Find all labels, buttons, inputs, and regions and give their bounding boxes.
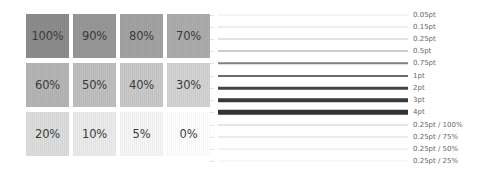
tick-mark xyxy=(210,125,214,126)
tint-swatch-50: 50% xyxy=(73,63,116,107)
line-weight-label: 0.25pt / 75% xyxy=(413,133,458,141)
line-weight-row: 1pt xyxy=(218,70,479,82)
line-weight-row: 0.75pt xyxy=(218,57,479,69)
swatch-label: 70% xyxy=(176,29,201,43)
line-stroke xyxy=(218,110,408,115)
line-weight-label: 0.5pt xyxy=(413,47,431,55)
tint-swatch-10: 10% xyxy=(73,112,116,156)
line-weight-row: 2pt xyxy=(218,82,479,94)
line-stroke xyxy=(218,62,408,64)
line-stroke xyxy=(218,125,408,126)
line-weight-label: 1pt xyxy=(413,72,425,80)
line-weight-row: 0.05pt xyxy=(218,9,479,21)
line-stroke xyxy=(218,15,408,16)
tick-mark xyxy=(210,39,214,40)
tick-mark xyxy=(210,112,214,113)
line-stroke xyxy=(218,75,408,77)
tick-mark xyxy=(210,51,214,52)
line-weight-label: 2pt xyxy=(413,84,425,92)
line-weight-label: 0.05pt xyxy=(413,11,436,19)
tint-swatch-40: 40% xyxy=(120,63,163,107)
swatch-label: 100% xyxy=(31,29,63,43)
line-weight-label: 0.15pt xyxy=(413,23,436,31)
line-weight-row: 0.25pt / 50% xyxy=(218,143,479,155)
swatch-label: 10% xyxy=(82,127,107,141)
line-stroke xyxy=(218,39,408,40)
line-weight-row: 0.25pt xyxy=(218,33,479,45)
tint-swatch-grid: 100% 90% 80% 70% 60% 50% 40% 30% 20% 10%… xyxy=(26,14,210,156)
tint-swatch-90: 90% xyxy=(73,14,116,58)
line-weight-row: 0.25pt / 25% xyxy=(218,155,479,167)
line-weight-list: 0.05pt 0.15pt 0.25pt 0.5pt 0.75pt 1pt 2p… xyxy=(218,0,479,176)
tint-swatch-0: 0% xyxy=(167,112,210,156)
tint-swatch-20: 20% xyxy=(26,112,69,156)
tint-swatch-5: 5% xyxy=(120,112,163,156)
tick-mark xyxy=(210,161,214,162)
line-weight-row: 0.15pt xyxy=(218,21,479,33)
swatch-label: 50% xyxy=(82,78,107,92)
tick-mark xyxy=(210,149,214,150)
line-weight-label: 0.25pt xyxy=(413,35,436,43)
tick-mark xyxy=(210,88,214,89)
line-stroke xyxy=(218,137,408,138)
line-stroke xyxy=(218,149,408,150)
swatch-label: 20% xyxy=(35,127,60,141)
tick-mark xyxy=(210,76,214,77)
tick-mark xyxy=(210,63,214,64)
line-weight-label: 0.25pt / 25% xyxy=(413,157,458,165)
swatch-label: 30% xyxy=(176,78,201,92)
swatch-label: 90% xyxy=(82,29,107,43)
line-weight-label: 0.25pt / 50% xyxy=(413,145,458,153)
swatch-label: 0% xyxy=(180,127,198,141)
tint-swatch-80: 80% xyxy=(120,14,163,58)
tint-swatch-100: 100% xyxy=(26,14,69,58)
tick-mark xyxy=(210,100,214,101)
line-weight-label: 3pt xyxy=(413,96,425,104)
line-stroke xyxy=(218,87,408,90)
line-stroke xyxy=(218,27,408,28)
line-stroke xyxy=(218,98,408,102)
tint-swatch-30: 30% xyxy=(167,63,210,107)
swatch-label: 5% xyxy=(133,127,151,141)
line-weight-label: 0.25pt / 100% xyxy=(413,121,463,129)
line-weight-row: 0.25pt / 100% xyxy=(218,119,479,131)
tick-mark xyxy=(210,27,214,28)
swatch-label: 80% xyxy=(129,29,154,43)
swatch-label: 40% xyxy=(129,78,154,92)
tint-swatch-70: 70% xyxy=(167,14,210,58)
line-weight-row: 0.5pt xyxy=(218,45,479,57)
line-weight-row: 0.25pt / 75% xyxy=(218,131,479,143)
line-weight-label: 4pt xyxy=(413,108,425,116)
swatch-label: 60% xyxy=(35,78,60,92)
line-weight-row: 4pt xyxy=(218,106,479,118)
line-weight-label: 0.75pt xyxy=(413,59,436,67)
tick-mark xyxy=(210,137,214,138)
line-stroke xyxy=(218,51,408,52)
line-stroke xyxy=(218,161,408,162)
tint-swatch-60: 60% xyxy=(26,63,69,107)
tick-mark xyxy=(210,15,214,16)
line-weight-row: 3pt xyxy=(218,94,479,106)
